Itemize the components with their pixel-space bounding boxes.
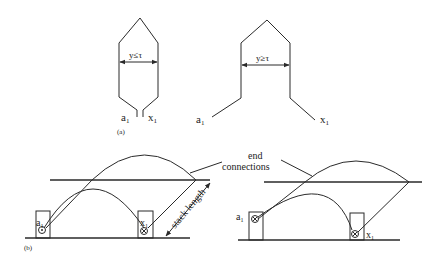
terminal-x1-long: x1 (320, 113, 330, 127)
stack-view-right (238, 160, 422, 240)
slot-label-x1-left: x1 (140, 217, 148, 229)
part-b-label: (b) (24, 244, 33, 252)
part-a-label: (a) (117, 128, 125, 136)
span-label-short: y≤τ (129, 50, 142, 60)
end-connection-arc-lower (258, 194, 352, 230)
terminal-a1-long: a1 (196, 113, 205, 127)
span-label-long: y≥τ (256, 53, 269, 63)
winding-diagram: y≤τ a1 x1 (a) y≥τ a1 x1 stack length a1 … (0, 0, 443, 260)
coil-short-pitch (119, 18, 158, 117)
end-connections-label-line1: end (248, 150, 262, 161)
slot-label-a1-right: a1 (236, 211, 243, 223)
leader-line (281, 160, 312, 176)
stack-length-label: stack length (168, 186, 207, 230)
terminal-x1-short: x1 (148, 111, 158, 125)
end-connection-arc-upper (92, 155, 196, 180)
end-connection-arc-lower (44, 189, 144, 228)
end-connections-label-line2: connections (222, 161, 270, 172)
slot-label-x1-right: x1 (366, 229, 374, 241)
slot-label-a1-left: a1 (36, 217, 43, 229)
leader-line (190, 162, 222, 173)
terminal-a1-short: a1 (121, 111, 130, 125)
coil-long-pitch (212, 20, 315, 120)
end-connection-arc-upper (305, 161, 409, 182)
